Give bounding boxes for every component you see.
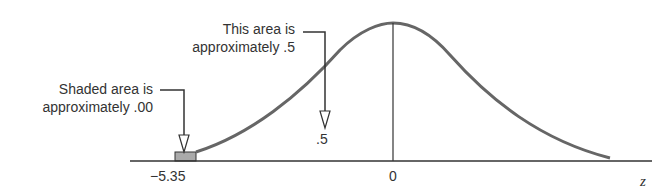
normal-distribution-diagram: This area is approximately .5 Shaded are… (0, 0, 669, 195)
annotation-top-line2: approximately .5 (150, 38, 295, 56)
axis-variable-label: z (640, 172, 646, 190)
arrow-down-icon (179, 135, 189, 152)
annotation-top-line1: This area is (150, 20, 295, 38)
arrow-down-icon (320, 111, 330, 128)
annotation-top: This area is approximately .5 (150, 20, 295, 56)
tick-label-zero: 0 (389, 167, 397, 185)
marker-label: .5 (316, 130, 328, 148)
annotation-bottom-line2: approximately .00 (0, 98, 153, 116)
shaded-area (175, 152, 196, 161)
annotation-bottom: Shaded area is approximately .00 (0, 80, 153, 116)
tick-label-neg: −5.35 (150, 167, 185, 185)
annotation-bottom-line1: Shaded area is (0, 80, 153, 98)
